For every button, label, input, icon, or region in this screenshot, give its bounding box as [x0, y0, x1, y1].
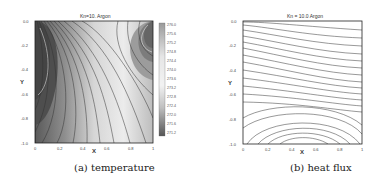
y-tick: -1.0: [21, 141, 28, 146]
y-tick: -0.2: [229, 43, 236, 48]
y-tick: -0.6: [229, 92, 236, 97]
x-tick: 0.6: [104, 146, 110, 151]
y-tick: 0.0: [231, 19, 237, 24]
x-tick: 0.2: [57, 146, 63, 151]
figure-temperature: Kn=10. Argon 0.0 -0.2 -0.4 -0.6 -0.8 -1.…: [0, 0, 190, 184]
temperature-contour-plot: [0, 0, 190, 184]
x-axis-label: X: [300, 149, 304, 155]
x-tick: 0.4: [80, 146, 86, 151]
x-tick: 0: [242, 147, 244, 152]
y-tick: -0.8: [229, 117, 236, 122]
x-tick: 0.2: [265, 147, 271, 152]
colorbar-label: 275.2: [167, 41, 176, 45]
x-tick: 0.8: [337, 147, 343, 152]
caption-heat-flux: (b) heat flux: [290, 162, 352, 173]
heat-flux-streamline-plot: [190, 0, 381, 184]
colorbar-label: 271.2: [167, 131, 176, 135]
y-axis-label: Y: [228, 80, 232, 86]
x-tick: 1: [361, 147, 363, 152]
y-tick: -1.0: [229, 142, 236, 147]
x-axis-label: X: [92, 148, 96, 154]
colorbar-label: 271.6: [167, 122, 176, 126]
y-tick: -0.8: [21, 116, 28, 121]
y-tick: 0.0: [23, 19, 29, 24]
colorbar-label: 272.4: [167, 104, 176, 108]
colorbar-label: 272.8: [167, 95, 176, 99]
x-tick: 0: [34, 146, 36, 151]
colorbar-label: 273.6: [167, 77, 176, 81]
x-tick: 1: [152, 146, 154, 151]
figure-heat-flux: Kn = 10.0 Argon 0.0 -0.2 -0.4 -0.6 -0.8 …: [190, 0, 380, 184]
colorbar-label: 274.0: [167, 68, 176, 72]
x-tick: 0.4: [289, 147, 295, 152]
colorbar-label: 275.6: [167, 32, 176, 36]
plot-title: Kn = 10.0 Argon: [287, 13, 323, 19]
caption-temperature: (a) temperature: [74, 162, 155, 173]
x-tick: 0.6: [313, 147, 319, 152]
colorbar-label: 274.4: [167, 59, 176, 63]
y-axis-label: Y: [20, 79, 24, 85]
colorbar-label: 276.0: [167, 23, 176, 27]
y-tick: -0.2: [21, 43, 28, 48]
x-tick: 0.8: [128, 146, 134, 151]
colorbar-label: 272.0: [167, 113, 176, 117]
y-tick: -0.4: [21, 67, 28, 72]
y-tick: -0.6: [21, 92, 28, 97]
plot-title: Kn=10. Argon: [80, 13, 110, 19]
colorbar-label: 273.2: [167, 86, 176, 90]
y-tick: -0.4: [229, 68, 236, 73]
colorbar-label: 274.8: [167, 50, 176, 54]
